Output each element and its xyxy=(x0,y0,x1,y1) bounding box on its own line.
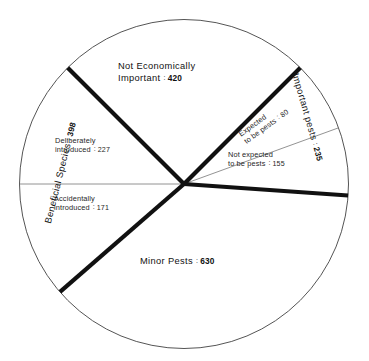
subslice-label-not-expected-to-be-pests: Not expected to be pests:155 xyxy=(228,150,285,170)
subslice-label-line1: Not expected xyxy=(228,150,285,159)
slice-label-minor-pests: Minor Pests:630 xyxy=(140,256,215,268)
slice-value: 630 xyxy=(200,256,214,266)
subslice-label-line2: introduced xyxy=(55,145,91,154)
subslice-label-line2-wrap: introduced:227 xyxy=(55,145,110,155)
subslice-label-accidentally-introduced: Accidentally introduced:171 xyxy=(54,194,109,214)
subslice-value: 171 xyxy=(97,204,109,212)
pie-chart: Not Economically Important:420 Minor Pes… xyxy=(0,0,369,361)
subslice-label-separator: : xyxy=(91,145,98,154)
subslice-label-line2: introduced xyxy=(54,203,90,212)
subslice-value: 227 xyxy=(98,146,110,154)
subslice-label-separator: : xyxy=(90,203,97,212)
subslice-label-line2-wrap: introduced:171 xyxy=(54,203,109,213)
subslice-label-line1: Accidentally xyxy=(54,194,109,203)
subslice-label-line2: to be pests xyxy=(228,159,265,168)
subslice-label-deliberately-introduced: Deliberately introduced:227 xyxy=(55,136,110,156)
subslice-value: 155 xyxy=(273,160,285,168)
subslice-label-separator: : xyxy=(265,159,272,168)
subslice-label-line1: Deliberately xyxy=(55,136,110,145)
slice-label-line1: Not Economically xyxy=(118,61,195,73)
slice-value: 420 xyxy=(168,73,182,83)
subslice-label-line2-wrap: to be pests:155 xyxy=(228,159,285,169)
slice-label-line2-wrap: Important:420 xyxy=(118,73,195,85)
slice-label-separator: : xyxy=(160,74,167,83)
slice-label-text: Minor Pests xyxy=(140,256,193,266)
slice-label-line2: Important xyxy=(118,73,160,83)
slice-label-not-economically-important: Not Economically Important:420 xyxy=(118,61,195,85)
